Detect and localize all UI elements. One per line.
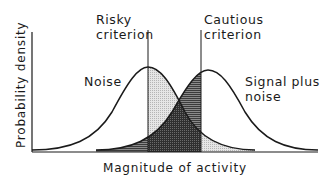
x-axis-label: Magnitude of activity [103, 161, 247, 175]
cautious-criterion-label-1: Cautious [204, 12, 264, 27]
noise-curve [32, 67, 255, 150]
signal-detection-diagram: Risky criterion Cautious criterion Noise… [0, 0, 334, 185]
signal-label-2: noise [245, 89, 281, 104]
y-axis-label: Probability density [14, 22, 28, 148]
risky-criterion-label-2: criterion [96, 27, 154, 42]
noise-label: Noise [84, 74, 122, 89]
risky-criterion-label-1: Risky [96, 12, 132, 27]
cautious-criterion-label-2: criterion [204, 27, 262, 42]
signal-label-1: Signal plus [245, 74, 320, 89]
